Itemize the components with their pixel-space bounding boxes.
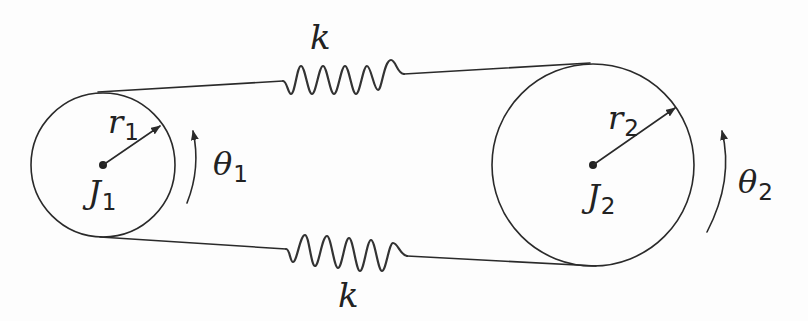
pulley-1-radius-label: r1 [108,106,139,144]
diagram-canvas [0,0,808,321]
j1-symbol: J [88,173,101,211]
theta2-subscript: 2 [758,179,773,205]
r2-symbol: r [608,99,623,137]
theta-1-label: θ1 [213,148,248,186]
theta1-symbol: θ [213,145,232,183]
j2-subscript: 2 [601,193,616,219]
pulley-2-inertia-label: J2 [587,180,615,218]
bottom-spring-label: k [338,278,359,312]
r2-subscript: 2 [624,115,639,141]
theta1-subscript: 1 [233,161,248,187]
j1-subscript: 1 [102,189,117,215]
pulley-spring-diagram: k k r1 J1 θ1 r2 J2 θ2 [0,0,808,321]
r1-subscript: 1 [124,119,139,145]
j2-symbol: J [587,177,600,215]
theta2-symbol: θ [738,163,757,201]
top-spring-label: k [310,20,331,54]
theta-1-rotation-arrow [187,131,196,203]
pulley-2-radius-label: r2 [608,102,639,140]
bottom-belt-right [407,256,596,266]
theta-2-label: θ2 [738,166,773,204]
bottom-spring-k: k [338,275,359,315]
top-spring-k: k [310,17,331,57]
top-belt-left [98,81,283,92]
bottom-belt-left [100,237,286,249]
theta-2-rotation-arrow [707,131,726,232]
r1-symbol: r [108,103,123,141]
top-spring [283,60,404,94]
pulley-1-inertia-label: J1 [88,176,116,214]
bottom-spring [286,235,407,271]
